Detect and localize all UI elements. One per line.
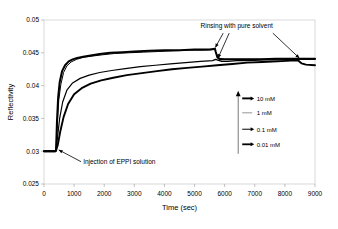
y-tick-label: 0.03 [26, 148, 39, 155]
y-tick-label: 0.04 [26, 82, 39, 89]
x-tick-label: 6000 [217, 190, 232, 197]
x-tick-label: 1000 [67, 190, 82, 197]
x-tick-label: 2000 [97, 190, 112, 197]
reflectivity-kinetics-chart: 0100020003000400050006000700080009000 0.… [0, 0, 338, 229]
legend-label-0-01-mm: 0.01 mM [257, 142, 280, 148]
x-axis-title: Time (sec) [162, 203, 198, 212]
x-tick-label: 7000 [248, 190, 263, 197]
legend-label-10-mm: 10 mM [257, 96, 275, 102]
y-axis-title: Reflectivity [6, 84, 15, 121]
x-tick-label: 5000 [187, 190, 202, 197]
y-tick-label: 0.045 [23, 49, 40, 56]
injection-annotation-text: Injection of EPPI solution [83, 158, 156, 166]
x-tick-label: 9000 [308, 190, 323, 197]
x-tick-label: 3000 [127, 190, 142, 197]
y-tick-label: 0.035 [23, 115, 40, 122]
rinsing-annotation-text: Rinsing with pure solvent [201, 22, 273, 30]
x-tick-label: 4000 [157, 190, 172, 197]
x-tick-label: 8000 [278, 190, 293, 197]
legend-label-0-1-mm: 0.1 mM [257, 127, 277, 133]
y-tick-label: 0.025 [23, 180, 40, 187]
legend-label-1-mm: 1 mM [257, 110, 272, 116]
y-tick-label: 0.05 [26, 16, 39, 23]
x-tick-label: 0 [42, 190, 46, 197]
